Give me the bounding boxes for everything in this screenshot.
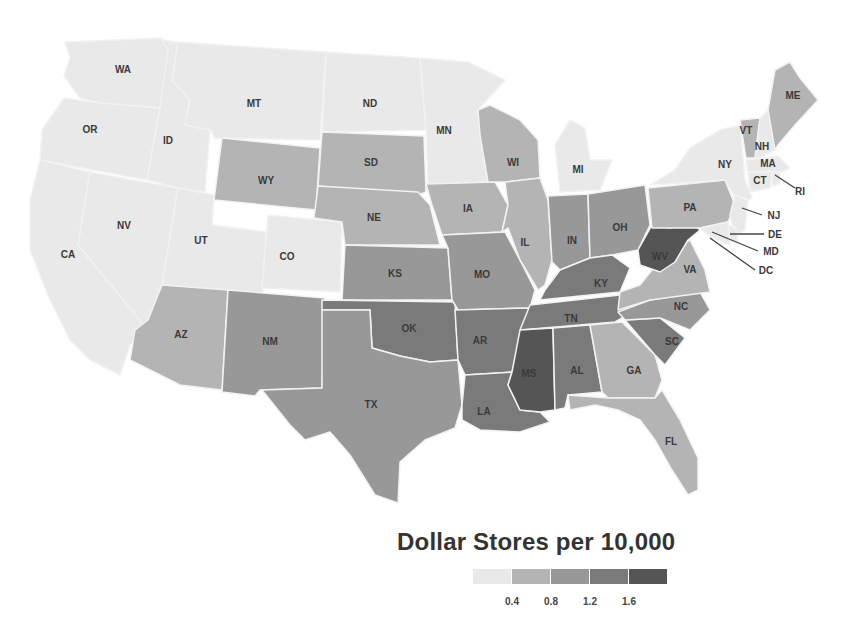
- legend-bin-3: [590, 569, 628, 584]
- label-MT: MT: [247, 98, 261, 109]
- legend-tick: 1.2: [583, 596, 597, 607]
- label-PA: PA: [683, 202, 696, 213]
- label-NE: NE: [367, 212, 381, 223]
- label-NV: NV: [117, 220, 131, 231]
- label-AL: AL: [570, 365, 583, 376]
- legend-bin-0: [473, 569, 511, 584]
- legend-tick: 0.8: [544, 596, 558, 607]
- state-WI[interactable]: [478, 105, 540, 182]
- label-NC: NC: [674, 301, 688, 312]
- label-VA: VA: [683, 264, 696, 275]
- state-CO[interactable]: [262, 215, 342, 292]
- label-DC: DC: [759, 265, 773, 276]
- state-MT[interactable]: [172, 42, 326, 140]
- state-FL[interactable]: [568, 390, 698, 495]
- legend-color-bar: [473, 569, 668, 584]
- legend-ticks: 0.4 0.8 1.2 1.6: [473, 596, 673, 610]
- label-WV: WV: [652, 251, 668, 262]
- label-TN: TN: [564, 313, 577, 324]
- label-IL: IL: [521, 237, 530, 248]
- label-KY: KY: [594, 278, 608, 289]
- label-ME: ME: [786, 90, 801, 101]
- label-WI: WI: [507, 157, 519, 168]
- state-MI[interactable]: [555, 120, 612, 192]
- legend-title: Dollar Stores per 10,000: [397, 528, 675, 556]
- state-ME[interactable]: [768, 62, 818, 150]
- label-ID: ID: [163, 135, 173, 146]
- label-IA: IA: [463, 203, 473, 214]
- label-NM: NM: [262, 336, 278, 347]
- legend-bin-1: [512, 569, 550, 584]
- legend-tick: 1.6: [622, 596, 636, 607]
- label-NY: NY: [718, 159, 732, 170]
- legend-bin-4: [629, 569, 667, 584]
- label-RI: RI: [795, 186, 805, 197]
- state-RI[interactable]: [772, 172, 780, 186]
- label-OR: OR: [83, 124, 99, 135]
- label-OK: OK: [402, 323, 418, 334]
- label-WA: WA: [115, 64, 131, 75]
- label-KS: KS: [388, 268, 402, 279]
- label-LA: LA: [477, 406, 490, 417]
- label-ND: ND: [363, 98, 377, 109]
- label-AZ: AZ: [174, 329, 187, 340]
- label-MD: MD: [763, 246, 779, 257]
- states-layer: [30, 38, 818, 503]
- label-MS: MS: [522, 368, 537, 379]
- label-CA: CA: [61, 249, 75, 260]
- state-ND[interactable]: [322, 52, 426, 132]
- legend-tick: 0.4: [505, 596, 519, 607]
- label-MO: MO: [474, 269, 490, 280]
- label-CO: CO: [280, 251, 295, 262]
- label-WY: WY: [258, 175, 274, 186]
- label-TX: TX: [365, 399, 378, 410]
- label-IN: IN: [567, 235, 577, 246]
- label-UT: UT: [194, 235, 207, 246]
- label-AR: AR: [473, 335, 488, 346]
- label-MA: MA: [760, 158, 776, 169]
- label-SC: SC: [665, 336, 679, 347]
- state-UT[interactable]: [162, 188, 268, 300]
- label-FL: FL: [665, 436, 677, 447]
- label-NH: NH: [755, 141, 769, 152]
- label-GA: GA: [627, 365, 642, 376]
- label-OH: OH: [613, 222, 628, 233]
- legend-bin-2: [551, 569, 589, 584]
- label-NJ: NJ: [768, 210, 781, 221]
- label-SD: SD: [364, 157, 378, 168]
- label-MI: MI: [572, 164, 583, 175]
- label-MN: MN: [436, 125, 452, 136]
- state-IN[interactable]: [548, 194, 590, 270]
- label-CT: CT: [753, 175, 766, 186]
- label-DE: DE: [768, 229, 782, 240]
- label-VT: VT: [740, 125, 753, 136]
